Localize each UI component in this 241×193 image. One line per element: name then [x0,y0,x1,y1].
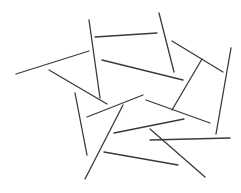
line-segment-14 [114,119,184,133]
line-segments-diagram [0,0,241,193]
line-segment-9 [216,48,231,134]
line-segment-3 [95,33,157,37]
line-segment-1 [16,51,89,74]
line-segment-17 [104,152,178,165]
line-segment-16 [150,129,205,177]
line-segment-12 [75,93,87,155]
line-segment-2 [89,20,100,98]
line-segment-11 [87,95,143,117]
line-segment-8 [172,59,202,110]
line-segment-5 [102,60,183,80]
line-segment-4 [159,13,174,72]
